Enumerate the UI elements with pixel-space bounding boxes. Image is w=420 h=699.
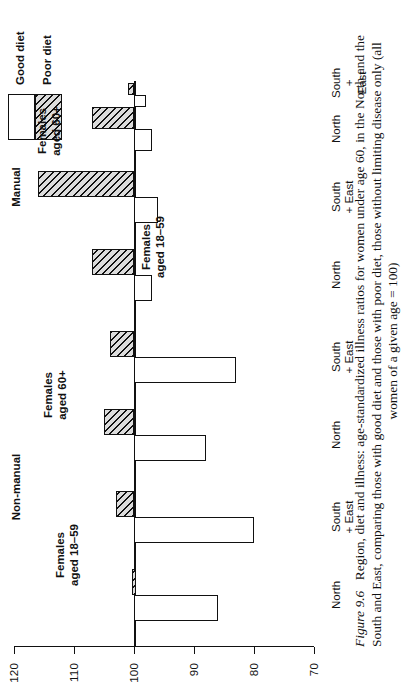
axis-tick-label-70: 70: [308, 663, 320, 676]
bar-manual-60plus-southeast-good: [134, 95, 146, 107]
axis-tick-label-100: 100: [128, 663, 140, 683]
category-label-1: North: [330, 581, 343, 609]
group-label-manual-18-59: Females aged 18–59: [140, 216, 167, 278]
plot-area: Illness ratio 120 110 100 90 80 70: [14, 81, 314, 647]
bar-manual-60plus-southeast-poor: [128, 83, 134, 95]
figure-caption-text: Region, diet and illness: age-standardiz…: [352, 35, 384, 647]
bar-nonmanual-18-59-southeast-good: [134, 517, 254, 543]
axis-tick-100: 100: [134, 647, 135, 654]
bar-nonmanual-60plus-southeast-good: [134, 357, 236, 383]
rotated-figure-stage: Good diet Poor diet Illness ratio 120 11…: [0, 0, 420, 699]
axis-tick-label-120: 120: [8, 663, 20, 683]
bar-nonmanual-18-59-southeast-poor: [116, 491, 134, 517]
value-axis-line: [14, 646, 314, 647]
group-label-nonmanual-60plus: Females aged 60+: [42, 370, 69, 420]
axis-tick-label-110: 110: [68, 663, 80, 682]
bar-manual-18-59-southeast-poor: [38, 171, 134, 197]
figure-9-6: Good diet Poor diet Illness ratio 120 11…: [0, 0, 420, 699]
bar-nonmanual-60plus-north-good: [134, 435, 206, 461]
category-label-7: North: [330, 115, 343, 143]
figure-caption-last-line: women of a given age = 100): [385, 35, 402, 647]
axis-tick-label-80: 80: [248, 663, 260, 676]
class-label-non-manual: Non-manual: [10, 454, 22, 520]
axis-tick-90: 90: [194, 647, 195, 654]
legend-label-poor-diet: Poor diet: [41, 35, 53, 85]
figure-caption: Figure 9.6 Region, diet and illness: age…: [352, 35, 402, 647]
bar-nonmanual-18-59-north-poor: [132, 569, 136, 595]
class-label-manual: Manual: [10, 167, 22, 207]
category-label-5: North: [330, 261, 343, 289]
group-label-manual-60plus: Females aged 60+: [36, 106, 63, 156]
bar-nonmanual-60plus-southeast-poor: [110, 331, 134, 357]
bar-manual-60plus-north-poor: [92, 107, 134, 129]
axis-tick-80: 80: [254, 647, 255, 654]
axis-tick-110: 110: [74, 647, 75, 654]
group-label-nonmanual-18-59: Females aged 18–59: [54, 524, 81, 586]
category-label-3: North: [330, 421, 343, 449]
bar-nonmanual-18-59-north-good: [134, 595, 218, 621]
axis-tick-label-90: 90: [188, 663, 200, 676]
bar-manual-18-59-north-good: [134, 275, 152, 301]
axis-tick-70: 70: [314, 647, 315, 654]
bar-nonmanual-60plus-north-poor: [104, 409, 134, 435]
axis-tick-120: 120: [14, 647, 15, 654]
bar-manual-60plus-north-good: [134, 129, 152, 151]
figure-number: Figure 9.6: [352, 591, 367, 647]
legend-label-good-diet: Good diet: [14, 31, 26, 85]
bar-manual-18-59-north-poor: [92, 249, 134, 275]
